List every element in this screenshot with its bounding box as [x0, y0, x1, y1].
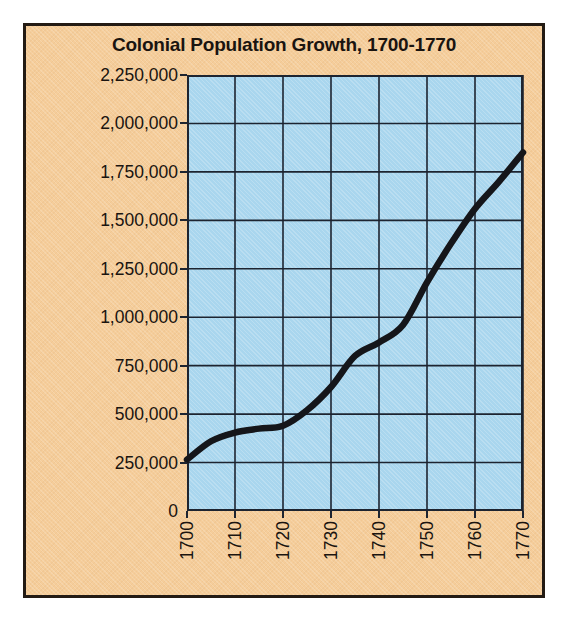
y-tick-label: 250,000 — [115, 452, 178, 473]
x-tick-mark — [522, 511, 524, 518]
x-tick-label: 1710 — [225, 521, 246, 560]
y-tick-label: 1,500,000 — [100, 210, 178, 231]
y-tick-mark — [180, 74, 187, 76]
x-tick-label: 1700 — [177, 521, 198, 560]
y-tick-label: 1,000,000 — [100, 307, 178, 328]
x-tick-label: 1770 — [513, 521, 534, 560]
y-tick-mark — [180, 365, 187, 367]
x-tick-mark — [378, 511, 380, 518]
y-tick-mark — [180, 219, 187, 221]
population-line-series — [187, 75, 523, 511]
chart-title: Colonial Population Growth, 1700-1770 — [26, 34, 542, 56]
x-tick-mark — [234, 511, 236, 518]
y-tick-label: 500,000 — [115, 404, 178, 425]
x-tick-mark — [426, 511, 428, 518]
y-tick-label: 2,250,000 — [100, 65, 178, 86]
y-tick-mark — [180, 171, 187, 173]
y-tick-mark — [180, 413, 187, 415]
x-tick-label: 1750 — [417, 521, 438, 560]
y-tick-mark — [180, 316, 187, 318]
y-tick-label: 750,000 — [115, 355, 178, 376]
x-tick-label: 1720 — [273, 521, 294, 560]
y-tick-label: 1,250,000 — [100, 258, 178, 279]
y-tick-mark — [180, 268, 187, 270]
chart-figure: Colonial Population Growth, 1700-1770 2,… — [23, 23, 545, 598]
x-tick-mark — [330, 511, 332, 518]
x-tick-mark — [282, 511, 284, 518]
x-tick-label: 1760 — [465, 521, 486, 560]
y-tick-label: 1,750,000 — [100, 161, 178, 182]
x-tick-mark — [186, 511, 188, 518]
y-tick-label: 0 — [168, 501, 178, 522]
x-tick-mark — [474, 511, 476, 518]
y-tick-label: 2,000,000 — [100, 113, 178, 134]
x-tick-label: 1730 — [321, 521, 342, 560]
plot-wrapper: 2,250,0002,000,0001,750,0001,500,0001,25… — [187, 75, 523, 511]
x-tick-label: 1740 — [369, 521, 390, 560]
y-tick-mark — [180, 462, 187, 464]
y-tick-mark — [180, 122, 187, 124]
